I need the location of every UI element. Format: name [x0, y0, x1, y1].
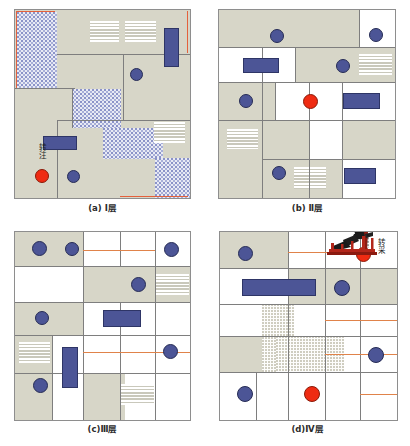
blue-well-marker — [237, 386, 253, 402]
grid-line-v-5 — [155, 232, 156, 420]
region-r4-beige-mid — [262, 120, 309, 159]
region-r5-beige-mid — [83, 373, 125, 420]
panel-d-caption: (d)Ⅳ层 — [205, 422, 410, 434]
stipple-region-2 — [72, 89, 121, 128]
blue-well-marker — [164, 242, 179, 257]
grid-line-h-3 — [15, 335, 190, 336]
grid-line-h-2 — [219, 82, 395, 83]
panel-a-caption: (a) Ⅰ层 — [0, 201, 205, 213]
blue-well-marker — [33, 378, 48, 393]
red-frame-bottom — [120, 196, 188, 197]
grid-line-v-1 — [256, 372, 257, 420]
hatch-block-1 — [90, 21, 119, 42]
panel-d: 转采 (d)Ⅳ层 — [205, 223, 410, 446]
hatch-block-3 — [294, 167, 326, 189]
grid-line-h-4 — [262, 159, 395, 160]
orange-line-2 — [325, 320, 397, 321]
blue-rect-1 — [243, 58, 279, 73]
blue-rect-vertical — [164, 28, 179, 67]
grid-line-v-3 — [120, 232, 121, 266]
hatch-block-1 — [156, 274, 189, 295]
panel-a: 转注 (a) Ⅰ层 — [0, 0, 205, 223]
grid-line-h-4 — [220, 372, 397, 373]
blue-rect-1 — [242, 279, 316, 296]
panel-b-caption: (b) Ⅱ层 — [205, 201, 410, 213]
blue-well-marker — [369, 28, 383, 42]
panel-c: (c)Ⅲ层 — [0, 223, 205, 446]
grid-line-h-2 — [15, 302, 190, 303]
grid-line-h-1 — [220, 268, 397, 269]
region-r5-beige-left — [219, 159, 262, 198]
red-well-marker — [304, 386, 320, 402]
grid-line-h-3 — [220, 336, 397, 337]
blue-well-marker — [65, 242, 79, 256]
grid-line-h-1 — [15, 266, 190, 267]
hatch-block-2 — [19, 342, 50, 363]
blue-well-marker — [130, 68, 143, 81]
grid-line-h-3 — [219, 120, 395, 121]
hatch-block-3 — [121, 384, 154, 405]
red-frame-top — [17, 11, 55, 12]
grid-line-v-1 — [57, 120, 58, 198]
grid-line-v-2 — [72, 88, 73, 128]
stipple-region-1 — [17, 12, 53, 88]
figure-container: 转注 (a) Ⅰ层 — [0, 0, 410, 446]
hatch-block-2 — [227, 129, 258, 149]
region-r3-beige — [15, 302, 83, 335]
blue-well-marker — [368, 347, 384, 363]
panel-c-map — [14, 231, 191, 421]
orange-line-4 — [360, 394, 397, 395]
blue-well-marker — [32, 241, 47, 256]
red-frame-right — [187, 11, 188, 53]
red-frame-left — [16, 11, 17, 88]
panel-b: (b) Ⅱ层 — [205, 0, 410, 223]
region-r4-beige — [220, 336, 268, 372]
region-r1-beige — [219, 10, 359, 47]
hatch-block-3 — [154, 122, 185, 143]
panel-c-caption: (c)Ⅲ层 — [0, 422, 205, 434]
pumpjack-icon — [321, 231, 381, 266]
legend-label-production: 转采 — [376, 238, 385, 254]
grid-line-v-3 — [123, 54, 124, 120]
hatch-block-2 — [125, 21, 156, 42]
blue-well-marker — [163, 344, 178, 359]
stipple-region-4 — [155, 158, 190, 198]
orange-line-3 — [325, 354, 397, 355]
grid-line-h-2 — [220, 304, 397, 305]
grid-line-v-2 — [288, 232, 289, 420]
region-r4-white — [309, 120, 342, 159]
blue-rect-3 — [344, 168, 376, 184]
orange-line-1 — [83, 250, 155, 251]
blue-rect-2 — [62, 347, 78, 388]
blue-well-marker — [131, 277, 146, 292]
blue-well-marker — [67, 170, 80, 183]
grid-line-h-2 — [15, 88, 75, 89]
grid-line-h-3 — [57, 120, 123, 121]
blue-well-marker — [272, 166, 286, 180]
hatch-block-1 — [359, 54, 392, 75]
legend-label-injection: 转注 — [37, 143, 46, 159]
grid-line-v-3 — [275, 82, 276, 120]
region-r4-beige-right — [342, 120, 395, 159]
blue-well-marker — [35, 311, 49, 325]
blue-well-marker — [336, 59, 350, 73]
region-r1-beige — [220, 232, 288, 268]
blue-well-marker — [239, 94, 253, 108]
red-well-marker — [303, 94, 318, 109]
blue-rect-horizontal — [43, 136, 77, 150]
blue-well-marker — [238, 246, 253, 261]
grid-line-h-4 — [123, 120, 190, 121]
blue-rect-2 — [343, 93, 380, 109]
grid-line-h-4 — [15, 373, 190, 374]
blue-well-marker — [334, 280, 350, 296]
stipple-region-1b — [53, 12, 57, 88]
panel-d-map: 转采 — [219, 231, 398, 421]
grid-line-v-1 — [52, 335, 53, 420]
panel-a-map: 转注 — [14, 9, 191, 199]
grid-line-h-1 — [219, 47, 395, 48]
grid-line-v-2 — [83, 232, 84, 420]
panel-b-map — [218, 9, 396, 199]
red-well-marker — [35, 169, 49, 183]
grid-line-v-2 — [295, 47, 296, 82]
blue-rect-1 — [103, 310, 141, 327]
